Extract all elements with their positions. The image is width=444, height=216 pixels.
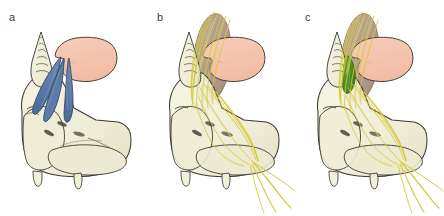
panel-a: a xyxy=(0,0,148,216)
panel-a-artwork xyxy=(0,0,148,216)
sphenoid-bone-c xyxy=(317,71,427,189)
panel-c: c xyxy=(296,0,444,216)
sphenoid-bone-b xyxy=(169,71,279,189)
panel-b: b xyxy=(148,0,296,216)
panel-b-artwork xyxy=(148,0,296,216)
sphenoid-bone-a xyxy=(21,71,131,189)
panel-c-artwork xyxy=(296,0,444,216)
